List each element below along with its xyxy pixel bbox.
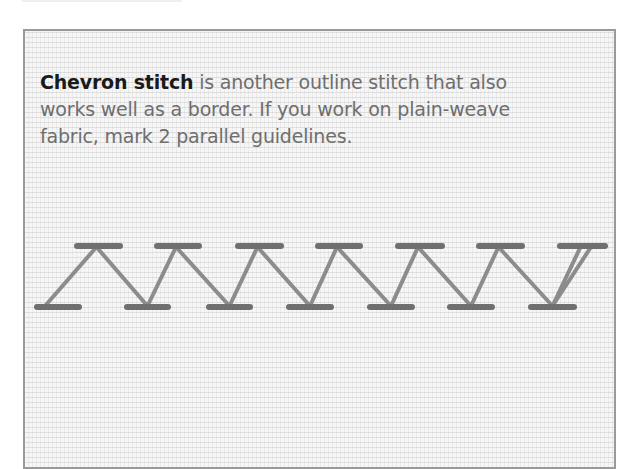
diagonal-stitch bbox=[418, 247, 471, 306]
diagonal-stitch bbox=[310, 247, 337, 306]
diagonal-stitch bbox=[553, 247, 592, 306]
diagonal-stitch bbox=[391, 247, 418, 306]
diagonal-stitch bbox=[258, 247, 311, 306]
diagonal-stitch bbox=[148, 247, 177, 306]
diagonal-stitch bbox=[97, 247, 148, 306]
diagonal-stitch bbox=[176, 247, 230, 306]
diagonal-stitch bbox=[230, 247, 258, 306]
diagonal-stitch bbox=[471, 247, 499, 306]
diagonal-stitch bbox=[45, 247, 97, 306]
diagonal-stitch bbox=[337, 247, 391, 306]
diagonal-stitch bbox=[499, 247, 553, 306]
